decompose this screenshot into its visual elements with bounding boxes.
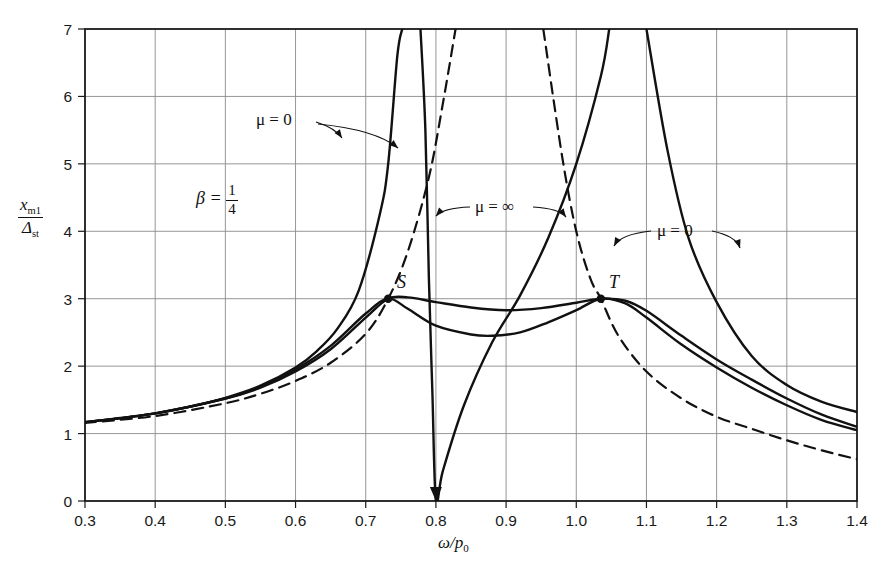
chart-svg: 0.30.40.50.60.70.80.91.01.11.21.31.4 012… [0,0,893,574]
x-tick-label: 1.1 [636,512,658,529]
fixed-point-label-t: T [609,272,619,293]
beta-denominator: 4 [226,201,238,218]
beta-annotation: β = 1 4 [196,183,238,218]
y-tick-label: 5 [63,156,72,173]
y-axis-ticks [78,29,85,501]
y-tick-label: 7 [63,21,72,38]
annotation-arrowheads [334,129,740,501]
y-axis-denominator-sub: st [32,229,39,240]
x-axis-ticks [85,501,857,508]
y-axis-tick-labels: 01234567 [63,21,72,510]
data-curves [85,29,857,504]
beta-numerator: 1 [226,183,238,201]
y-tick-label: 3 [63,291,72,308]
x-tick-label: 1.4 [846,512,868,529]
curve-dashed [543,29,857,459]
fixed-point-label-s: S [397,272,406,293]
x-axis-title: ω/p0 [438,534,469,555]
x-tick-label: 0.4 [144,512,166,529]
x-tick-label: 0.3 [74,512,96,529]
beta-annotation-text: β = [196,188,222,208]
y-tick-label: 1 [63,426,72,443]
leader-line [614,231,651,246]
fixed-point-t [597,295,605,303]
x-tick-label: 0.8 [425,512,447,529]
x-tick-label: 0.5 [215,512,237,529]
x-axis-title-text: ω/p [438,533,463,552]
y-axis-numerator-sub: m1 [28,205,41,216]
mu-zero-right-annotation: μ = 0 [657,222,693,240]
x-tick-label: 0.9 [495,512,517,529]
figure-container: 0.30.40.50.60.70.80.91.01.11.21.31.4 012… [0,0,893,574]
y-tick-label: 6 [63,88,72,105]
fixed-point-s [384,295,392,303]
mu-zero-left-annotation: μ = 0 [256,111,292,129]
y-axis-denominator: Δ [22,218,32,237]
x-tick-label: 0.7 [355,512,377,529]
curve-dashed [85,29,456,423]
plot-frame [85,29,857,501]
x-tick-label: 1.0 [565,512,587,529]
arrowhead [614,237,621,246]
vertical-gridlines [155,29,787,501]
mu-infinity-annotation: μ = ∞ [475,198,514,216]
curve-solid [85,298,857,430]
y-tick-label: 0 [63,493,72,510]
x-tick-label: 1.3 [776,512,798,529]
x-tick-label: 1.2 [706,512,728,529]
x-tick-label: 0.6 [285,512,307,529]
curve-solid [420,29,609,504]
x-axis-tick-labels: 0.30.40.50.60.70.80.91.01.11.21.31.4 [74,512,868,529]
y-tick-label: 2 [63,358,72,375]
y-axis-numerator: x [20,195,28,214]
x-axis-title-sub: 0 [463,542,469,554]
y-axis-title: xm1 Δst [18,196,43,240]
curve-solid [85,29,402,422]
y-tick-label: 4 [63,223,72,240]
arrowhead [334,129,342,138]
zero-marker-arrow [430,487,442,501]
arrowhead [436,208,444,216]
